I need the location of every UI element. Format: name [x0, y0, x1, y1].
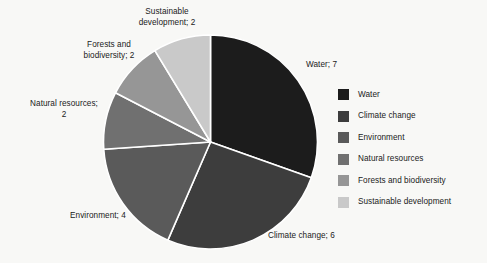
slice-callout-natural-resources: Natural resources; 2 — [6, 99, 122, 120]
legend-label-forests-and-biodiversity: Forests and biodiversity — [358, 176, 446, 186]
legend-item-water[interactable]: Water — [338, 84, 484, 106]
legend-label-climate-change: Climate change — [358, 111, 416, 121]
pie-chart-figure: Water; 7 Climate change; 6 Environment; … — [0, 0, 487, 263]
legend-item-forests-and-biodiversity[interactable]: Forests and biodiversity — [338, 170, 484, 192]
legend-item-natural-resources[interactable]: Natural resources — [338, 149, 484, 171]
chart-legend: WaterClimate changeEnvironmentNatural re… — [338, 84, 484, 213]
legend-swatch-sustainable-development — [338, 197, 349, 208]
slice-callout-forests-and-biodiversity: Forests and biodiversity; 2 — [56, 40, 162, 61]
slice-callout-climate-change: Climate change; 6 — [268, 231, 386, 242]
legend-item-sustainable-development[interactable]: Sustainable development — [338, 192, 484, 214]
slice-callout-water: Water; 7 — [306, 60, 386, 71]
legend-swatch-water — [338, 89, 349, 100]
legend-label-sustainable-development: Sustainable development — [358, 197, 451, 207]
legend-label-water: Water — [358, 90, 380, 100]
legend-swatch-natural-resources — [338, 154, 349, 165]
slice-callout-sustainable-development: Sustainable development; 2 — [112, 7, 222, 28]
legend-label-environment: Environment — [358, 133, 405, 143]
legend-label-natural-resources: Natural resources — [358, 154, 423, 164]
legend-swatch-environment — [338, 132, 349, 143]
slice-callout-environment: Environment; 4 — [44, 211, 152, 222]
legend-item-climate-change[interactable]: Climate change — [338, 106, 484, 128]
legend-swatch-forests-and-biodiversity — [338, 175, 349, 186]
legend-swatch-climate-change — [338, 111, 349, 122]
legend-item-environment[interactable]: Environment — [338, 127, 484, 149]
